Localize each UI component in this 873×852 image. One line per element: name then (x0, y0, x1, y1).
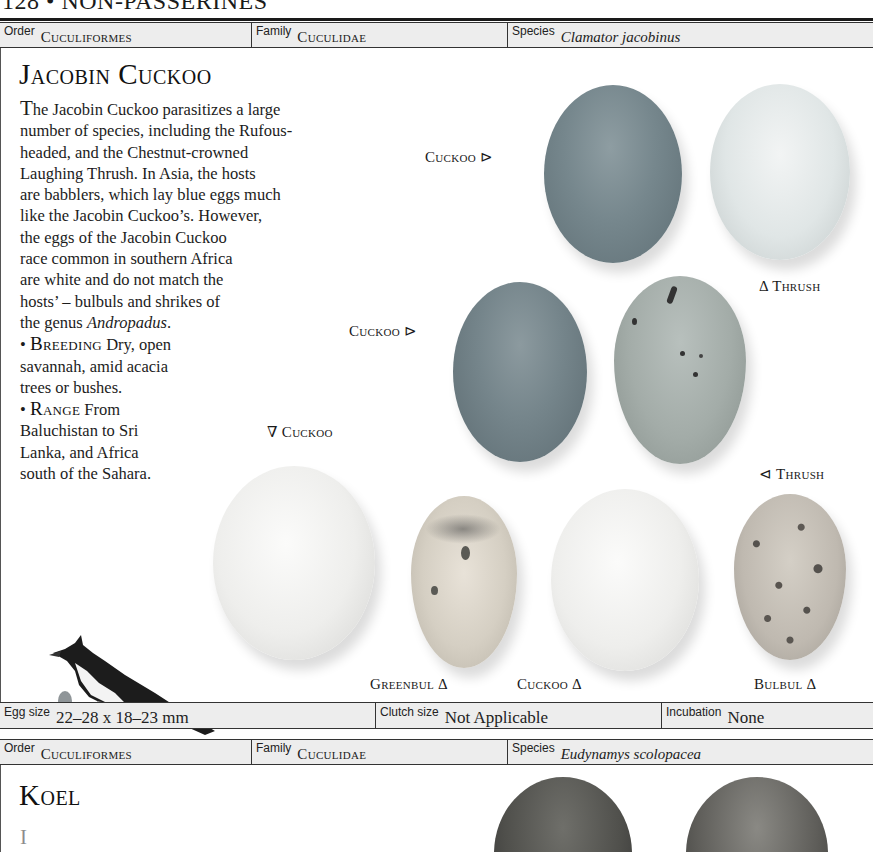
range-heading: Range (30, 398, 80, 419)
dropcap: T (20, 96, 33, 120)
species-title: Koel (19, 779, 81, 812)
family-value: Cuculidae (297, 29, 366, 46)
order-value: Cuculiformes (41, 29, 132, 46)
species-value: Clamator jacobinus (561, 29, 681, 46)
order-cell: Order Cuculiformes (0, 740, 252, 764)
description-line: Laughing Thrush. In Asia, the hosts (20, 163, 292, 184)
egg-thrush-pale-1 (710, 84, 850, 260)
breeding-line: • Breeding Dry, open (20, 333, 292, 355)
range-line: Baluchistan to Sri (20, 420, 292, 441)
family-cell: Family Cuculidae (252, 740, 508, 764)
label-cuckoo-1: Cuckoo ⊳ (425, 148, 493, 166)
incubation-cell: Incubation None (662, 703, 873, 728)
description-line: hosts’ – bulbuls and shrikes of (20, 291, 292, 312)
range-line: Lanka, and Africa (20, 442, 292, 463)
egg-koel-2 (686, 777, 828, 852)
description: The Jacobin Cuckoo parasitizes a large n… (20, 98, 292, 484)
label-greenbul: Greenbul Δ (370, 676, 448, 693)
clutch-size-label: Clutch size (380, 705, 439, 719)
label-cuckoo-4: Cuckoo Δ (517, 676, 582, 693)
egg-size-label: Egg size (4, 705, 50, 719)
description-line: the genus Andropadus. (20, 312, 292, 333)
description-line: The Jacobin Cuckoo parasitizes a large (20, 98, 292, 120)
egg-thrush-speckled (614, 276, 746, 464)
family-label: Family (256, 741, 291, 755)
label-cuckoo-3: ∇ Cuckoo (267, 423, 333, 441)
egg-cuckoo-white-2 (551, 489, 699, 671)
species-value: Eudynamys scolopacea (561, 746, 701, 763)
order-label: Order (4, 24, 35, 38)
description-line: race common in southern Africa (20, 248, 292, 269)
entry-koel: Koel I (0, 765, 873, 852)
egg-cuckoo-white-large (213, 466, 375, 660)
order-value: Cuculiformes (41, 746, 132, 763)
egg-size-value: 22–28 x 18–23 mm (56, 708, 189, 728)
header-rule (0, 18, 873, 21)
egg-bulbul (734, 494, 846, 660)
species-cell: Species Clamator jacobinus (508, 23, 873, 47)
page-header: 128 • NON-PASSERINES (2, 0, 268, 15)
order-cell: Order Cuculiformes (0, 23, 252, 47)
incubation-label: Incubation (666, 705, 721, 719)
order-label: Order (4, 741, 35, 755)
description-line: are babblers, which lay blue eggs much (20, 184, 292, 205)
species-label: Species (512, 24, 555, 38)
egg-koel-1 (494, 777, 632, 852)
species-label: Species (512, 741, 555, 755)
taxonomy-bar-koel: Order Cuculiformes Family Cuculidae Spec… (0, 739, 873, 765)
label-bulbul: Bulbul Δ (754, 676, 816, 693)
family-label: Family (256, 24, 291, 38)
description-line: number of species, including the Rufous- (20, 120, 292, 141)
taxonomy-bar-jacobin: Order Cuculiformes Family Cuculidae Spec… (0, 22, 873, 48)
clutch-size-cell: Clutch size Not Applicable (376, 703, 662, 728)
egg-size-cell: Egg size 22–28 x 18–23 mm (0, 703, 376, 728)
breeding-line: trees or bushes. (20, 377, 292, 398)
label-thrush-1: Δ Thrush (759, 278, 820, 295)
dropcap: I (20, 825, 27, 849)
entry-jacobin-cuckoo: Jacobin Cuckoo The Jacobin Cuckoo parasi… (0, 48, 873, 702)
species-cell: Species Eudynamys scolopacea (508, 740, 873, 764)
incubation-value: None (727, 708, 764, 728)
family-cell: Family Cuculidae (252, 23, 508, 47)
breeding-heading: Breeding (30, 333, 102, 354)
family-value: Cuculidae (297, 746, 366, 763)
genus-name: Andropadus (87, 313, 167, 332)
breeding-line: savannah, amid acacia (20, 356, 292, 377)
clutch-size-value: Not Applicable (445, 708, 548, 728)
label-cuckoo-2: Cuckoo ⊳ (349, 322, 417, 340)
label-thrush-2: ⊲ Thrush (759, 465, 824, 483)
range-line: • Range From (20, 398, 292, 420)
stats-bar-jacobin: Egg size 22–28 x 18–23 mm Clutch size No… (0, 702, 873, 729)
egg-cuckoo-blue-1 (544, 85, 682, 263)
egg-cuckoo-blue-2 (453, 282, 587, 462)
description-line: headed, and the Chestnut-crowned (20, 142, 292, 163)
description-line: like the Jacobin Cuckoo’s. However, (20, 205, 292, 226)
species-title: Jacobin Cuckoo (19, 58, 212, 91)
description: I (20, 827, 27, 849)
description-line: the eggs of the Jacobin Cuckoo (20, 227, 292, 248)
description-line: are white and do not match the (20, 269, 292, 290)
egg-greenbul (411, 496, 517, 668)
